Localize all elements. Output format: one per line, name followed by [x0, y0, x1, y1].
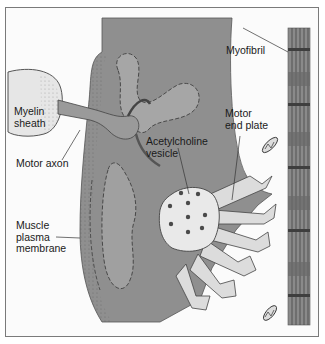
label-myofibril: Myofibril	[226, 45, 265, 57]
neuromuscular-junction-illustration	[0, 0, 325, 344]
mitochondrion-lower	[261, 304, 279, 323]
label-motor-end-plate: Motor end plate	[225, 108, 268, 131]
mitochondrion-upper	[260, 135, 280, 155]
myofibril	[288, 28, 310, 325]
label-acetylcholine-vesicle: Acetylcholine vesicle	[146, 136, 208, 159]
label-myelin-sheath: Myelin sheath	[14, 106, 46, 129]
label-motor-axon: Motor axon	[16, 158, 69, 170]
acetylcholine-vesicle	[159, 187, 219, 251]
label-muscle-plasma-membrane: Muscle plasma membrane	[16, 220, 66, 255]
